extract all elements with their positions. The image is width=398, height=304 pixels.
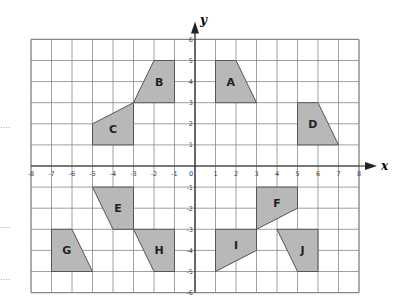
x-tick-label: 0	[189, 170, 193, 178]
shape-label: B	[155, 76, 163, 89]
coordinate-plane: ABCDEFGHIJxy-8-7-6-5-4-3-2-1012345678654…	[0, 0, 398, 304]
x-tick-label: -3	[130, 170, 136, 178]
y-tick-label: 2	[189, 120, 193, 128]
y-tick-label: 5	[189, 57, 193, 65]
shape-label: C	[109, 123, 117, 136]
shape-label: G	[62, 244, 71, 257]
shape-label: E	[114, 202, 122, 215]
x-tick-label: -6	[69, 170, 75, 178]
x-tick-label: -4	[110, 170, 116, 178]
y-tick-label: -2	[187, 205, 193, 213]
x-tick-label: -7	[48, 170, 54, 178]
y-tick-label: 1	[189, 141, 193, 149]
x-tick-label: 3	[254, 170, 258, 178]
shape-label: A	[227, 76, 236, 89]
shape-label: J	[300, 244, 305, 257]
y-tick-label: 3	[189, 99, 193, 107]
y-axis-label: y	[199, 13, 208, 27]
x-tick-label: 6	[316, 170, 320, 178]
y-tick-label: -1	[187, 184, 193, 192]
x-tick-label: 2	[234, 170, 238, 178]
margin-mark: ....	[0, 274, 11, 282]
x-tick-label: 4	[275, 170, 279, 178]
x-tick-label: 5	[295, 170, 299, 178]
shape-label: F	[273, 197, 281, 210]
y-tick-label: -6	[187, 289, 193, 297]
x-tick-label: -8	[28, 170, 34, 178]
y-tick-label: -4	[187, 247, 193, 255]
x-tick-label: -5	[89, 170, 95, 178]
y-tick-label: 4	[189, 78, 193, 86]
x-tick-label: 7	[336, 170, 340, 178]
shape-label: I	[234, 239, 238, 252]
y-axis-arrow-icon	[191, 21, 199, 33]
x-tick-label: -1	[171, 170, 177, 178]
margin-mark: ....	[0, 222, 11, 230]
x-axis-arrow-icon	[365, 162, 377, 170]
shape-label: H	[155, 244, 164, 257]
coordinate-grid-diagram: ABCDEFGHIJxy-8-7-6-5-4-3-2-1012345678654…	[0, 0, 398, 304]
x-tick-label: 8	[357, 170, 361, 178]
x-axis-label: x	[380, 159, 389, 173]
y-tick-label: -3	[187, 226, 193, 234]
margin-mark: ....	[0, 122, 11, 130]
y-tick-label: 6	[189, 36, 193, 44]
x-tick-label: -2	[151, 170, 157, 178]
x-tick-label: 1	[213, 170, 217, 178]
y-tick-label: -5	[187, 268, 193, 276]
shape-label: D	[308, 118, 317, 131]
